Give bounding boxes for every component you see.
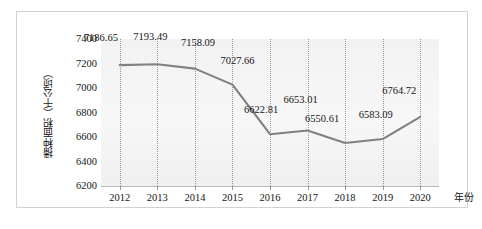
y-tick-label: 6800 xyxy=(61,108,97,118)
gridline xyxy=(157,39,158,186)
y-tick-label: 6400 xyxy=(61,157,97,167)
x-tick-label: 2020 xyxy=(397,191,443,204)
gridline xyxy=(120,39,121,186)
data-point-label: 6653.01 xyxy=(284,94,318,105)
data-point-label: 6550.61 xyxy=(305,113,339,124)
gridline xyxy=(195,39,196,186)
x-tick-mark xyxy=(232,186,233,190)
y-tick-label: 6600 xyxy=(61,132,97,142)
x-axis-title: 年份 xyxy=(454,191,474,204)
x-tick-mark xyxy=(383,186,384,190)
data-point-label: 6764.72 xyxy=(382,85,416,96)
y-axis-tick-labels: 7400720070006800660064006200 xyxy=(61,34,97,186)
gridline xyxy=(420,39,421,186)
x-axis-tick-labels: 201220132014201520162017201820192020 xyxy=(101,191,439,207)
x-tick-mark xyxy=(308,186,309,190)
x-axis-ticks xyxy=(101,186,439,190)
data-point-label: 7193.49 xyxy=(133,31,167,42)
data-point-label: 6622.81 xyxy=(244,104,278,115)
data-point-label: 7027.66 xyxy=(220,55,254,66)
y-tick-label: 7000 xyxy=(61,83,97,93)
chart-frame: 播种面积（千公顷） 7400720070006800660064006200 2… xyxy=(16,11,468,208)
x-tick-mark xyxy=(195,186,196,190)
y-axis-title: 播种面积（千公顷） xyxy=(39,40,59,185)
x-tick-mark xyxy=(270,186,271,190)
y-tick-label: 7200 xyxy=(61,59,97,69)
y-axis-title-text: 播种面积（千公顷） xyxy=(44,68,54,158)
x-tick-mark xyxy=(157,186,158,190)
data-point-label: 7158.09 xyxy=(181,37,215,48)
gridline xyxy=(345,39,346,186)
chart-figure: 播种面积（千公顷） 7400720070006800660064006200 2… xyxy=(0,0,482,229)
x-tick-mark xyxy=(420,186,421,190)
data-point-label: 7186.65 xyxy=(84,32,118,43)
x-tick-mark xyxy=(120,186,121,190)
y-tick-label: 6200 xyxy=(61,181,97,191)
x-tick-mark xyxy=(345,186,346,190)
data-point-label: 6583.09 xyxy=(359,109,393,120)
